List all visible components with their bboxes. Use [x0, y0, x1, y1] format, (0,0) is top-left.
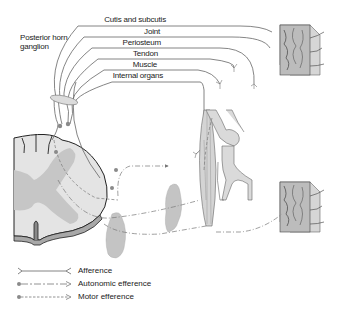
ganglion-label-line1: Posterior horn: [20, 33, 67, 42]
ganglion-label: Posterior horn ganglion: [20, 33, 67, 51]
label-periosteum: Periosteum: [100, 38, 161, 47]
internal-organs-shapes: [106, 184, 182, 258]
spinal-cord-cross-section: [14, 134, 107, 245]
ganglion-label-line2: ganglion: [20, 42, 67, 51]
legend-label: Autonomic efference: [78, 279, 151, 288]
afference-line-icon: [16, 267, 72, 275]
motor-efference-line-icon: [16, 293, 72, 301]
muscle: [200, 110, 217, 226]
afferent-nerves: [52, 26, 272, 178]
skin-tissue-block-lower: [280, 182, 324, 232]
legend-label: Afference: [78, 266, 112, 275]
skin-tissue-block-upper: [280, 25, 324, 75]
label-tendon: Tendon: [100, 49, 158, 58]
label-joint: Joint: [100, 27, 160, 36]
legend-item-motor-efference: Motor efference: [16, 292, 134, 301]
label-muscle: Muscle: [100, 60, 157, 69]
legend-item-autonomic-efference: Autonomic efference: [16, 279, 151, 288]
autonomic-efference-line-icon: [16, 280, 72, 288]
legend-item-afference: Afference: [16, 266, 112, 275]
label-cutis-subcutis: Cutis and subcutis: [100, 15, 166, 24]
legend-label: Motor efference: [78, 292, 134, 301]
label-internal-organs: Internal organs: [100, 71, 163, 80]
